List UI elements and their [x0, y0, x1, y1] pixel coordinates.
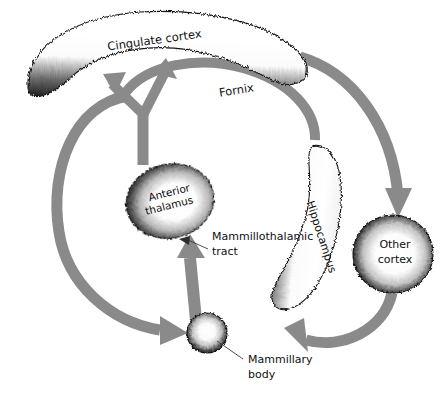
label-other-cortex-line1: Other	[379, 238, 411, 251]
label-mammillary-body-line2: body	[248, 368, 276, 381]
structure-mammillary-body	[187, 313, 227, 353]
label-other-cortex-line2: cortex	[378, 253, 413, 266]
label-mammillothalamic-tract-line1: Mammillothalamic	[212, 230, 313, 243]
label-fornix: Fornix	[218, 80, 255, 99]
label-mammillary-body-line1: Mammillary	[248, 353, 313, 366]
label-mammillothalamic-tract-line2: tract	[212, 245, 239, 258]
leader-line-mammillary-body	[217, 341, 243, 359]
pathway-arrows	[57, 57, 412, 352]
pathway-mammillothalamic-tract	[177, 234, 205, 320]
diagram-canvas: Cingulate cortex Fornix Anterior thalamu…	[0, 0, 446, 393]
structure-cingulate-cortex	[28, 11, 307, 96]
papez-circuit-diagram: Cingulate cortex Fornix Anterior thalamu…	[0, 0, 446, 393]
structure-hippocampus	[272, 145, 341, 309]
